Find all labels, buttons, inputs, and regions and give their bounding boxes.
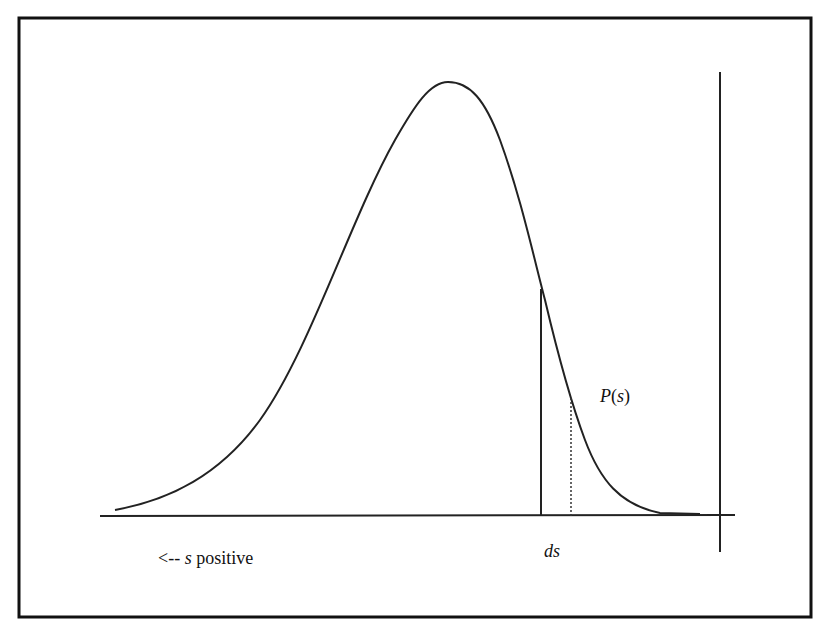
interval-label: ds	[544, 541, 560, 561]
curve-label: P(s)	[599, 386, 630, 407]
horizontal-axis	[100, 515, 735, 516]
direction-label: <-- s positive	[158, 548, 253, 568]
density-curve	[115, 82, 700, 514]
diagram-canvas: <-- s positive ds P(s)	[0, 0, 828, 633]
